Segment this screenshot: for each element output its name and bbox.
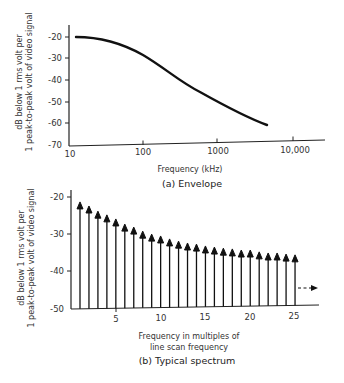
arrowhead-icon	[256, 252, 262, 259]
y-tick-label: -40	[48, 75, 62, 85]
spectrum-lines	[77, 202, 298, 309]
arrowhead-icon	[176, 241, 182, 248]
x-tick-label: 25	[289, 311, 300, 321]
arrowhead-icon	[167, 239, 173, 246]
x-axis	[71, 305, 319, 309]
y-tick-label: -30	[48, 53, 62, 63]
y-ticks: -20 -30 -40 -50	[50, 192, 71, 314]
x-tick-label: 10	[65, 149, 76, 159]
envelope-curve	[76, 37, 267, 125]
envelope-chart: dB below 1 rms volt per 1 peak-to-peak v…	[15, 12, 325, 189]
x-tick-label: 100	[135, 147, 151, 157]
x-axis-label: Frequency (kHz)	[158, 165, 223, 174]
y-ticks: -20 -30 -40 -50 -60 -70	[48, 32, 69, 150]
figure: dB below 1 rms volt per 1 peak-to-peak v…	[0, 0, 344, 383]
arrowhead-icon	[149, 234, 155, 241]
arrowhead-icon	[86, 206, 92, 213]
y-axis-label-line2: 1 peak-to-peak volt of video signal	[25, 12, 34, 151]
arrowhead-icon	[77, 202, 83, 209]
arrowhead-icon	[283, 254, 289, 261]
y-tick-label: -20	[50, 192, 64, 202]
y-tick-label: -40	[50, 266, 64, 276]
y-tick-label: -50	[48, 97, 62, 107]
arrowhead-icon	[95, 211, 101, 218]
arrowhead-icon	[104, 215, 110, 222]
arrowhead-icon	[211, 247, 217, 254]
x-tick-label: 20	[245, 312, 256, 322]
arrowhead-icon	[220, 248, 226, 255]
x-axis-label-line2: line scan frequency	[150, 343, 228, 352]
y-tick-label: -70	[48, 140, 62, 150]
x-ticks: 5 10 15 20 25	[113, 308, 299, 324]
arrowhead-icon	[202, 246, 208, 253]
x-axis-label-line1: Frequency in multiples of	[139, 332, 240, 341]
arrowhead-icon	[229, 249, 235, 256]
y-tick-label: -50	[50, 304, 64, 314]
spectrum-chart: dB below 1 rms volt per 1 peak-to-peak v…	[17, 188, 319, 366]
arrowhead-icon	[247, 250, 253, 257]
x-tick-label: 15	[200, 312, 211, 322]
continuation-arrow	[298, 285, 318, 291]
arrowhead-icon	[292, 255, 298, 262]
arrowhead-icon	[185, 243, 191, 250]
x-tick-label: 1000	[207, 146, 229, 156]
arrowhead-icon	[238, 250, 244, 257]
y-tick-label: -20	[48, 32, 62, 42]
x-tick-label: 10	[156, 313, 167, 323]
x-ticks: 10 100 1000 10,000	[65, 137, 310, 160]
x-tick-label: 5	[113, 314, 118, 324]
arrowhead-icon	[113, 219, 119, 226]
y-axis-label-line1: dB below 1 rms volt per	[15, 34, 24, 130]
arrowhead-icon	[131, 227, 137, 234]
x-tick-label: 10,000	[280, 145, 310, 155]
arrowhead-icon	[265, 253, 271, 260]
arrowhead-icon	[158, 236, 164, 243]
y-tick-label: -60	[48, 118, 62, 128]
y-axis-label-line1: dB below 1 rms volt per	[17, 210, 26, 306]
chart-caption: (a) Envelope	[162, 178, 222, 189]
arrowhead-icon	[122, 224, 128, 231]
arrowhead-icon	[193, 244, 199, 251]
arrowhead-icon	[140, 231, 146, 238]
y-axis-label-line2: 1 peak-to-peak volt of video signal	[27, 188, 36, 327]
chart-caption: (b) Typical spectrum	[139, 355, 236, 366]
arrowhead-icon	[274, 253, 280, 260]
y-tick-label: -30	[50, 229, 64, 239]
